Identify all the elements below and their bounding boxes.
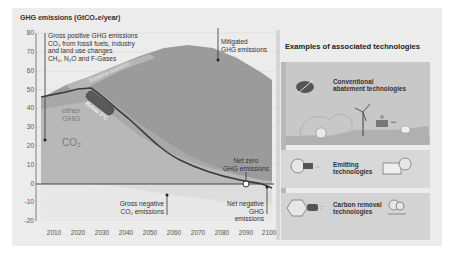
annotation-line: Net zero xyxy=(221,157,271,165)
annotation-line: Mitigated xyxy=(221,38,267,46)
annotation-line: Gross negative xyxy=(118,200,164,208)
tech-label: technologies xyxy=(333,168,372,175)
y-tick: 10 xyxy=(16,161,34,168)
y-tick: 70 xyxy=(16,48,34,55)
annotation-line: GHG emissions xyxy=(221,46,267,54)
tech-label: Conventional xyxy=(333,78,406,85)
annotation-line: and land use changes xyxy=(48,47,138,55)
y-tick: 60 xyxy=(16,67,34,74)
tech-emitting: Emitting technologies xyxy=(333,161,372,176)
y-tick: -20 xyxy=(16,217,34,224)
y-tick: 80 xyxy=(16,29,34,36)
svg-text:•••: ••• xyxy=(391,119,397,125)
net-zero-marker xyxy=(243,181,249,187)
mitigated-annotation: Mitigated GHG emissions xyxy=(221,38,267,53)
svg-text:∴: ∴ xyxy=(316,163,319,169)
net-zero-annotation: Net zero GHG emissions xyxy=(221,157,271,172)
y-axis-label: GHG emissions (GtCO₂e/year) xyxy=(20,13,120,22)
tech-label: abatement technologies xyxy=(333,85,406,92)
tech-carbon-removal: Carbon removal technologies xyxy=(333,201,382,216)
y-tick: 30 xyxy=(16,123,34,130)
annotation-line: Gross positive GHG emissions xyxy=(48,32,138,40)
annotation-line: GHG emissions xyxy=(221,165,271,173)
x-tick: 2100 xyxy=(254,229,284,236)
net-negative-annotation: Net negative GHG emissions xyxy=(222,200,264,223)
tech-label: Carbon removal xyxy=(333,201,382,208)
y-tick: 40 xyxy=(16,104,34,111)
y-tick: -10 xyxy=(16,198,34,205)
gross-negative-annotation: Gross negative CO₂ emissions xyxy=(118,200,164,215)
tech-label: Emitting xyxy=(333,161,372,168)
co2-label: CO₂ xyxy=(62,139,81,147)
annotation-line: CO₂ emissions xyxy=(118,208,164,216)
y-tick: 20 xyxy=(16,142,34,149)
annotation-line: Net negative xyxy=(222,200,264,208)
y-tick: 0 xyxy=(16,180,34,187)
annotation-line: GHG emissions xyxy=(222,208,264,223)
y-tick: 50 xyxy=(16,86,34,93)
technologies-panel-title: Examples of associated technologies xyxy=(285,42,420,51)
gross-positive-annotation: Gross positive GHG emissions CO₂ from fo… xyxy=(48,32,138,62)
svg-text:∵: ∵ xyxy=(320,204,323,210)
tech-label: technologies xyxy=(333,208,382,215)
tech-conventional: Conventional abatement technologies xyxy=(333,78,406,93)
annotation-line: CO₂ from fossil fuels, industry xyxy=(48,40,138,48)
area-label: GHG xyxy=(62,115,80,123)
other-ghg-label: other GHG xyxy=(62,107,80,123)
